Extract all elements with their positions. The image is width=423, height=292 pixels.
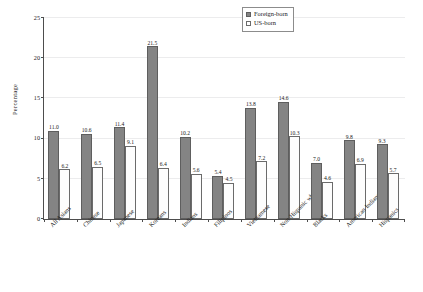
x-tick-mark	[372, 219, 373, 222]
bar-foreign-born[interactable]: 10.6	[81, 134, 92, 219]
x-tick-mark	[274, 219, 275, 222]
x-tick-mark	[142, 219, 143, 222]
x-tick-mark	[175, 219, 176, 222]
bar-value-label: 4.5	[225, 177, 232, 183]
bar-foreign-born[interactable]: 9.8	[344, 140, 355, 219]
y-tick-label: 0	[26, 216, 40, 222]
bar-value-label: 21.5	[147, 41, 157, 47]
bar-group: 7.04.6Blacks	[307, 18, 340, 219]
bar-value-label: 7.0	[313, 157, 320, 163]
bar-value-label: 10.2	[180, 131, 190, 137]
bar-value-label: 11.4	[115, 122, 125, 128]
bar-group: 9.86.9American Indians	[339, 18, 372, 219]
x-tick-mark	[241, 219, 242, 222]
x-tick-mark	[339, 219, 340, 222]
bar-foreign-born[interactable]: 10.2	[180, 137, 191, 219]
bar-value-label: 9.1	[127, 140, 134, 146]
x-tick-mark	[208, 219, 209, 222]
bar-value-label: 14.6	[279, 96, 289, 102]
bar-foreign-born[interactable]: 11.4	[114, 127, 125, 219]
legend-item-us-born: US-born	[246, 19, 288, 28]
bar-foreign-born[interactable]: 21.5	[147, 46, 158, 219]
x-tick-mark	[110, 219, 111, 222]
y-tick-label: 25	[26, 15, 40, 21]
bar-group: 10.25.6Indians	[175, 18, 208, 219]
y-axis-title: Percentage	[11, 50, 18, 150]
x-tick-mark	[404, 219, 405, 222]
bar-foreign-born[interactable]: 9.3	[377, 144, 388, 219]
x-tick-mark	[77, 219, 78, 222]
bar-value-label: 5.4	[214, 170, 221, 176]
bar-foreign-born[interactable]: 14.6	[278, 102, 289, 219]
y-tick-label: 20	[26, 55, 40, 61]
bar-foreign-born[interactable]: 13.8	[245, 108, 256, 219]
x-tick-mark	[44, 219, 45, 222]
bar-value-label: 9.8	[346, 135, 353, 141]
legend-item-foreign-born: Foreign-born	[246, 10, 288, 19]
y-tick-label: 10	[26, 135, 40, 141]
legend-label-foreign-born: Foreign-born	[254, 11, 288, 17]
bar-group: 13.87.2Vietnamese	[241, 18, 274, 219]
bar-foreign-born[interactable]: 7.0	[311, 163, 322, 219]
bar-value-label: 6.2	[61, 164, 68, 170]
bar-chart-figure: Percentage 051015202511.06.2All Asians10…	[0, 0, 423, 292]
legend-swatch-us-born-icon	[246, 21, 251, 26]
bar-group: 11.49.1Japanese	[110, 18, 143, 219]
bar-group: 5.44.5Filipinos	[208, 18, 241, 219]
bar-value-label: 13.8	[246, 102, 256, 108]
chart-legend: Foreign-born US-born	[242, 7, 294, 32]
bar-group: 11.06.2All Asians	[44, 18, 77, 219]
y-tick-label: 15	[26, 95, 40, 101]
bar-value-label: 9.3	[379, 139, 386, 145]
bar-value-label: 11.0	[49, 125, 59, 131]
bar-value-label: 4.6	[324, 176, 331, 182]
bar-value-label: 6.4	[160, 162, 167, 168]
bar-value-label: 5.7	[390, 168, 397, 174]
plot-area: 051015202511.06.2All Asians10.66.5Chines…	[43, 18, 405, 220]
bar-value-label: 7.2	[258, 156, 265, 162]
bar-group: 9.35.7Hispanics	[372, 18, 405, 219]
bar-foreign-born[interactable]: 11.0	[48, 131, 59, 219]
bar-group: 21.56.4Koreans	[142, 18, 175, 219]
bar-value-label: 10.3	[290, 131, 300, 137]
bar-group: 14.610.3Non-Hispanic whites	[274, 18, 307, 219]
legend-swatch-foreign-born-icon	[246, 12, 251, 17]
bar-value-label: 6.9	[357, 158, 364, 164]
bar-value-label: 10.6	[82, 128, 92, 134]
bar-value-label: 6.5	[94, 161, 101, 167]
bar-value-label: 5.6	[193, 168, 200, 174]
x-tick-mark	[307, 219, 308, 222]
legend-label-us-born: US-born	[254, 20, 276, 26]
y-tick-label: 5	[26, 176, 40, 182]
bar-group: 10.66.5Chinese	[77, 18, 110, 219]
